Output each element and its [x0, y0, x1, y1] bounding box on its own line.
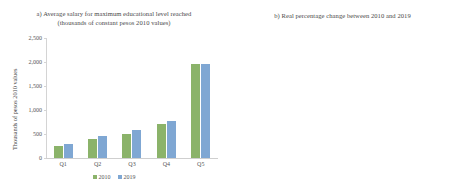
chart-a-bar-group [115, 38, 149, 158]
chart-a-bar-group [184, 38, 218, 158]
chart-a-x-axis-line [46, 158, 218, 159]
chart-a-bar-2010-Q2 [88, 139, 97, 158]
chart-a-bars [46, 38, 218, 158]
chart-a-bar-group [149, 38, 183, 158]
chart-a-y-tick-label: 2,500 [16, 35, 42, 41]
chart-a-bar-2019-Q5 [201, 64, 210, 158]
chart-a-y-tick-label: 1,500 [16, 83, 42, 89]
legend-swatch-icon [118, 175, 122, 179]
chart-b-title: b) Real percentage change between 2010 a… [228, 11, 457, 20]
chart-a-plot-area: 05001,0001,5002,0002,500 Q1Q2Q3Q4Q5 [46, 38, 218, 158]
chart-a-y-tick-label: 1,000 [16, 107, 42, 113]
chart-a-category-label-Q5: Q5 [184, 161, 218, 167]
chart-b-title-line1: b) Real percentage change between 2010 a… [228, 11, 457, 20]
figure-container: a) Average salary for maximum educationa… [0, 0, 457, 193]
chart-a-legend-label: 2019 [124, 174, 136, 180]
chart-a-legend-item-2010[interactable]: 2010 [93, 174, 111, 180]
chart-a-bar-2019-Q3 [132, 130, 141, 158]
chart-a-category-label-Q4: Q4 [149, 161, 183, 167]
chart-a-y-tick-mark [44, 62, 46, 63]
chart-a-y-tick-mark [44, 38, 46, 39]
chart-a-y-tick-mark [44, 134, 46, 135]
chart-a-bar-2019-Q4 [167, 121, 176, 158]
chart-a-legend-label: 2010 [99, 174, 111, 180]
chart-a-y-tick-label: 500 [16, 131, 42, 137]
chart-a-bar-2010-Q1 [54, 146, 63, 158]
chart-a-title-line2: (thousands of constant pesos 2010 values… [0, 18, 228, 27]
chart-a-legend: 20102019 [0, 174, 228, 180]
chart-a-y-tick-label: 0 [16, 155, 42, 161]
chart-a-bar-2019-Q2 [98, 136, 107, 158]
legend-swatch-icon [93, 175, 97, 179]
chart-a-bar-group [80, 38, 114, 158]
chart-a-title-line1: a) Average salary for maximum educationa… [0, 9, 228, 18]
chart-a-y-tick-mark [44, 86, 46, 87]
chart-a-category-label-Q2: Q2 [80, 161, 114, 167]
chart-panel-a: a) Average salary for maximum educationa… [0, 0, 228, 193]
chart-a-bar-2010-Q3 [122, 134, 131, 158]
chart-a-category-label-Q3: Q3 [115, 161, 149, 167]
chart-a-title: a) Average salary for maximum educationa… [0, 9, 228, 27]
chart-a-y-tick-mark [44, 158, 46, 159]
chart-a-y-tick-mark [44, 110, 46, 111]
chart-a-bar-2010-Q4 [157, 124, 166, 158]
chart-a-bar-2010-Q5 [191, 64, 200, 158]
chart-a-bar-group [46, 38, 80, 158]
chart-panel-b: b) Real percentage change between 2010 a… [228, 0, 457, 193]
chart-a-y-tick-label: 2,000 [16, 59, 42, 65]
chart-a-bar-2019-Q1 [64, 144, 73, 158]
chart-a-category-label-Q1: Q1 [46, 161, 80, 167]
chart-a-legend-item-2019[interactable]: 2019 [118, 174, 136, 180]
